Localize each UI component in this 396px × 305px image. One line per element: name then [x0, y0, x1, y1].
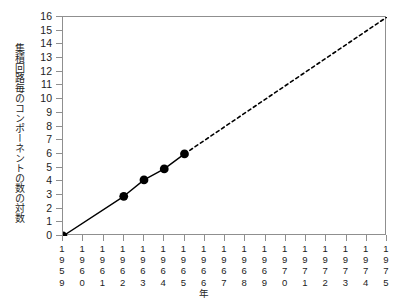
y-axis-tick-label: 14 — [26, 38, 52, 49]
x-axis-tick-mark — [184, 235, 185, 241]
y-axis-tick-label: 15 — [26, 24, 52, 35]
y-axis-tick-mark — [56, 153, 62, 154]
data-point-marker — [119, 192, 128, 201]
y-axis-tick-mark — [56, 167, 62, 168]
moores-law-chart: 集積回路毎のコンポーネントの数の対数 012345678910111213141… — [0, 0, 396, 305]
y-axis-tick-mark — [56, 16, 62, 17]
y-axis-title: 集積回路毎のコンポーネントの数の対数 — [2, 18, 24, 248]
y-axis-tick-mark — [56, 221, 62, 222]
y-axis-tick-mark — [56, 71, 62, 72]
x-axis-tick-label: 1 9 6 1 — [95, 243, 111, 288]
x-axis-unit-label: 年 — [196, 289, 212, 299]
x-axis-tick-mark — [265, 235, 266, 241]
data-point-marker — [63, 232, 67, 236]
y-axis-tick-mark — [56, 194, 62, 195]
y-axis-tick-mark — [56, 180, 62, 181]
x-axis-tick-label: 1 9 7 2 — [317, 243, 333, 288]
x-axis-tick-mark — [366, 235, 367, 241]
x-axis-tick-mark — [82, 235, 83, 241]
x-axis-tick-mark — [285, 235, 286, 241]
x-axis-tick-label: 1 9 6 7 — [216, 243, 232, 288]
x-axis-tick-label: 1 9 6 0 — [74, 243, 90, 288]
y-axis-tick-mark — [56, 139, 62, 140]
x-axis-tick-mark — [123, 235, 124, 241]
y-axis-tick-label: 9 — [26, 107, 52, 118]
x-axis-tick-label: 1 9 7 5 — [378, 243, 394, 288]
x-axis-tick-mark — [244, 235, 245, 241]
x-axis-tick-labels: 1 9 5 91 9 6 01 9 6 11 9 6 21 9 6 31 9 6… — [0, 243, 396, 295]
series-group — [63, 17, 387, 236]
x-axis-tick-mark — [224, 235, 225, 241]
plot-area — [62, 16, 386, 235]
x-axis-tick-label: 1 9 6 2 — [115, 243, 131, 288]
y-axis-tick-label: 11 — [26, 79, 52, 90]
y-axis-tick-label: 4 — [26, 175, 52, 186]
x-axis-tick-mark — [305, 235, 306, 241]
y-axis-tick-label: 10 — [26, 93, 52, 104]
y-axis-tick-label: 5 — [26, 161, 52, 172]
x-axis-tick-label: 1 9 6 5 — [176, 243, 192, 288]
y-axis-tick-mark — [56, 98, 62, 99]
x-axis-tick-label: 1 9 6 8 — [236, 243, 252, 288]
y-axis-tick-label: 2 — [26, 202, 52, 213]
y-axis-tick-mark — [56, 208, 62, 209]
y-axis-tick-label: 1 — [26, 216, 52, 227]
x-axis-tick-label: 1 9 6 9 — [257, 243, 273, 288]
x-axis-tick-label: 1 9 6 3 — [135, 243, 151, 288]
x-axis-tick-mark — [386, 235, 387, 241]
x-axis-tick-mark — [163, 235, 164, 241]
y-axis-tick-mark — [56, 30, 62, 31]
y-axis-tick-mark — [56, 112, 62, 113]
y-axis-tick-mark — [56, 84, 62, 85]
plot-svg — [63, 17, 387, 236]
y-axis-tick-label: 0 — [26, 230, 52, 241]
y-axis-tick-label: 3 — [26, 189, 52, 200]
x-axis-tick-label: 1 9 7 1 — [297, 243, 313, 288]
x-axis-tick-label: 1 9 6 4 — [155, 243, 171, 288]
x-axis-tick-label: 1 9 5 9 — [54, 243, 70, 288]
y-axis-tick-label: 12 — [26, 66, 52, 77]
x-axis-tick-label: 1 9 7 0 — [277, 243, 293, 288]
x-axis-tick-mark — [103, 235, 104, 241]
data-point-marker — [160, 165, 169, 174]
y-axis-tick-label: 16 — [26, 11, 52, 22]
y-axis-tick-mark — [56, 43, 62, 44]
x-axis-tick-mark — [62, 235, 63, 241]
x-axis-tick-mark — [346, 235, 347, 241]
x-axis-tick-mark — [204, 235, 205, 241]
x-axis-tick-label: 1 9 6 6 — [196, 243, 212, 288]
x-axis-tick-mark — [143, 235, 144, 241]
y-axis-tick-label: 8 — [26, 120, 52, 131]
x-axis-tick-mark — [325, 235, 326, 241]
y-axis-tick-mark — [56, 126, 62, 127]
y-axis-tick-label: 6 — [26, 148, 52, 159]
x-axis-tick-label: 1 9 7 3 — [338, 243, 354, 288]
y-axis-tick-mark — [56, 57, 62, 58]
data-point-marker — [140, 175, 149, 184]
extrapolation-line — [185, 17, 388, 154]
y-axis-tick-label: 7 — [26, 134, 52, 145]
y-axis-tick-label: 13 — [26, 52, 52, 63]
x-axis-tick-label: 1 9 7 4 — [358, 243, 374, 288]
y-axis-tick-labels: 012345678910111213141516 — [26, 11, 52, 235]
